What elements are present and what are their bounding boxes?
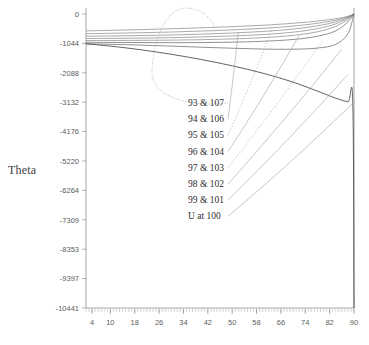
x-tick-label: 34 <box>179 318 187 327</box>
annotation-labels-group: 93 & 10794 & 10695 & 10596 & 10497 & 103… <box>188 98 224 221</box>
y-tick-label: -9397 <box>60 274 79 283</box>
annotation-leaders-group <box>152 8 354 216</box>
x-tick-label: 26 <box>155 318 163 327</box>
x-tick-label: 4 <box>90 318 94 327</box>
x-axis-ticks: 41018263442505866748290 <box>86 309 358 327</box>
series-annotation-label: 99 & 101 <box>188 195 224 205</box>
data-curve <box>86 14 354 31</box>
y-tick-label: -7309 <box>60 216 79 225</box>
series-annotation-label: 95 & 105 <box>188 130 224 140</box>
series-annotation-label: 96 & 104 <box>188 147 224 157</box>
leader-line-94-106 <box>228 32 238 119</box>
leader-line-93-107 <box>152 8 228 104</box>
x-tick-label: 10 <box>106 318 114 327</box>
leader-line-96-104 <box>228 35 299 151</box>
x-tick-label: 58 <box>252 318 260 327</box>
data-curve <box>86 14 354 49</box>
x-tick-label: 90 <box>350 318 358 327</box>
y-tick-label: -10441 <box>56 304 79 313</box>
x-tick-label: 42 <box>204 318 212 327</box>
x-tick-label: 18 <box>131 318 139 327</box>
y-tick-label: -4176 <box>60 127 79 136</box>
y-tick-label: -6264 <box>60 186 79 195</box>
series-annotation-label: 93 & 107 <box>188 98 224 108</box>
y-tick-label: 0 <box>75 10 79 19</box>
y-axis-ticks: 0-1044-2088-3132-4176-5220-6264-7309-835… <box>56 10 86 313</box>
leader-line-98-102 <box>228 49 342 184</box>
x-tick-label: 74 <box>301 318 309 327</box>
leader-line-u-at-100 <box>228 102 354 216</box>
data-curves-group <box>86 14 354 308</box>
axes-group <box>86 8 355 308</box>
series-annotation-label: 98 & 102 <box>188 179 224 189</box>
x-tick-label: 50 <box>228 318 236 327</box>
chart-figure: Theta 0-1044-2088-3132-4176-5220-6264-73… <box>0 0 369 345</box>
y-tick-label: -5220 <box>60 157 79 166</box>
leader-line-97-103 <box>228 39 324 167</box>
y-tick-label: -1044 <box>60 39 79 48</box>
chart-plot-area: 0-1044-2088-3132-4176-5220-6264-7309-835… <box>0 0 369 345</box>
y-tick-label: -8353 <box>60 245 79 254</box>
y-tick-label: -2088 <box>60 69 79 78</box>
y-tick-label: -3132 <box>60 98 79 107</box>
series-annotation-label: U at 100 <box>188 211 221 221</box>
series-annotation-label: 97 & 103 <box>188 163 224 173</box>
x-tick-label: 66 <box>277 318 285 327</box>
series-annotation-label: 94 & 106 <box>188 114 224 124</box>
data-curve <box>86 14 354 34</box>
x-tick-label: 82 <box>325 318 333 327</box>
